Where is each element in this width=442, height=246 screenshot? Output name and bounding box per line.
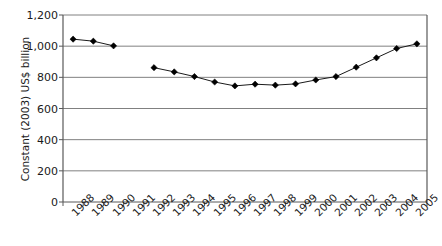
x-axis-tick-label: 1990 <box>110 191 137 218</box>
x-axis-tick-label: 1998 <box>271 191 298 218</box>
x-axis-tick-labels: 1988198919901991199219931994199519961997… <box>0 0 442 246</box>
x-axis-tick-label: 2003 <box>372 191 399 218</box>
x-axis-tick-label: 1994 <box>190 191 217 218</box>
x-axis-tick-label: 1989 <box>89 191 116 218</box>
x-axis-tick-label: 2004 <box>393 191 420 218</box>
x-axis-tick-label: 1999 <box>292 191 319 218</box>
chart-container: Constant (2003) US$ billion 020040060080… <box>0 0 442 246</box>
x-axis-tick-label: 1995 <box>211 191 238 218</box>
